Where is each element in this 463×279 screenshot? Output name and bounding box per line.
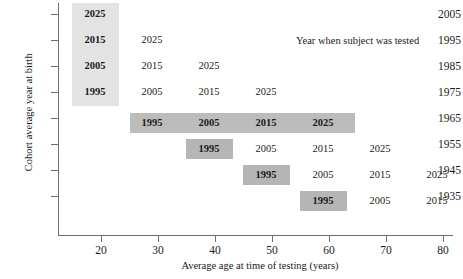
y-axis-label-2005: 2005 bbox=[417, 9, 461, 21]
y-axis-tick-2005 bbox=[51, 14, 58, 15]
y-axis-label-1975: 1975 bbox=[417, 87, 461, 99]
x-axis-tick-60 bbox=[329, 235, 330, 242]
x-axis-label-80: 80 bbox=[423, 245, 463, 257]
y-axis-tick-1945 bbox=[51, 170, 58, 171]
cell-1985-30: 2015 bbox=[129, 61, 175, 72]
x-axis-tick-70 bbox=[386, 235, 387, 242]
x-axis-tick-40 bbox=[215, 235, 216, 242]
y-axis-tick-1995 bbox=[51, 40, 58, 41]
y-axis-tick-1955 bbox=[51, 144, 58, 145]
cell-1995-20: 2015 bbox=[72, 35, 118, 46]
cell-1945-80: 2025 bbox=[414, 170, 460, 181]
y-axis-label-1955: 1955 bbox=[417, 139, 461, 151]
cell-1955-70: 2025 bbox=[357, 144, 403, 155]
cell-1975-40: 2015 bbox=[186, 87, 232, 98]
cell-1985-40: 2025 bbox=[186, 61, 232, 72]
x-axis-tick-20 bbox=[101, 235, 102, 242]
x-axis-line bbox=[58, 235, 453, 236]
y-axis-tick-1975 bbox=[51, 92, 58, 93]
cell-1935-70: 2005 bbox=[357, 196, 403, 207]
x-axis-label-30: 30 bbox=[138, 245, 178, 257]
cell-1935-80: 2015 bbox=[414, 196, 460, 207]
x-axis-label-20: 20 bbox=[81, 245, 121, 257]
cell-1965-30: 1995 bbox=[129, 118, 175, 129]
x-axis-label-50: 50 bbox=[252, 245, 292, 257]
cell-1965-40: 2005 bbox=[186, 118, 232, 129]
cell-1965-60: 2025 bbox=[300, 118, 346, 129]
y-axis-label-1995: 1995 bbox=[417, 35, 461, 47]
cell-1975-30: 2005 bbox=[129, 87, 175, 98]
cell-1955-40: 1995 bbox=[186, 144, 232, 155]
x-axis-label-60: 60 bbox=[309, 245, 349, 257]
y-axis-label-1965: 1965 bbox=[417, 113, 461, 125]
cell-1995-30: 2025 bbox=[129, 35, 175, 46]
x-axis-label-70: 70 bbox=[366, 245, 406, 257]
cell-1945-50: 1995 bbox=[243, 170, 289, 181]
cell-1935-60: 1995 bbox=[300, 196, 346, 207]
y-axis-tick-1965 bbox=[51, 118, 58, 119]
x-axis-label-40: 40 bbox=[195, 245, 235, 257]
cell-1965-50: 2015 bbox=[243, 118, 289, 129]
x-axis-tick-80 bbox=[443, 235, 444, 242]
y-axis-title: Cohort average year at birth bbox=[24, 27, 35, 197]
cell-1975-50: 2025 bbox=[243, 87, 289, 98]
cell-1945-70: 2015 bbox=[357, 170, 403, 181]
x-axis-tick-30 bbox=[158, 235, 159, 242]
x-axis-title: Average age at time of testing (years) bbox=[120, 261, 400, 272]
cell-1975-20: 1995 bbox=[72, 87, 118, 98]
cell-1945-60: 2005 bbox=[300, 170, 346, 181]
y-axis-tick-1985 bbox=[51, 66, 58, 67]
plot-annotation-note: Year when subject was tested bbox=[296, 35, 419, 46]
y-axis-line bbox=[58, 3, 59, 235]
cell-2005-20: 2025 bbox=[72, 9, 118, 20]
cell-1985-20: 2005 bbox=[72, 61, 118, 72]
x-axis-tick-50 bbox=[272, 235, 273, 242]
y-axis-label-1985: 1985 bbox=[417, 61, 461, 73]
cell-1955-60: 2015 bbox=[300, 144, 346, 155]
y-axis-tick-1935 bbox=[51, 196, 58, 197]
cell-1955-50: 2005 bbox=[243, 144, 289, 155]
